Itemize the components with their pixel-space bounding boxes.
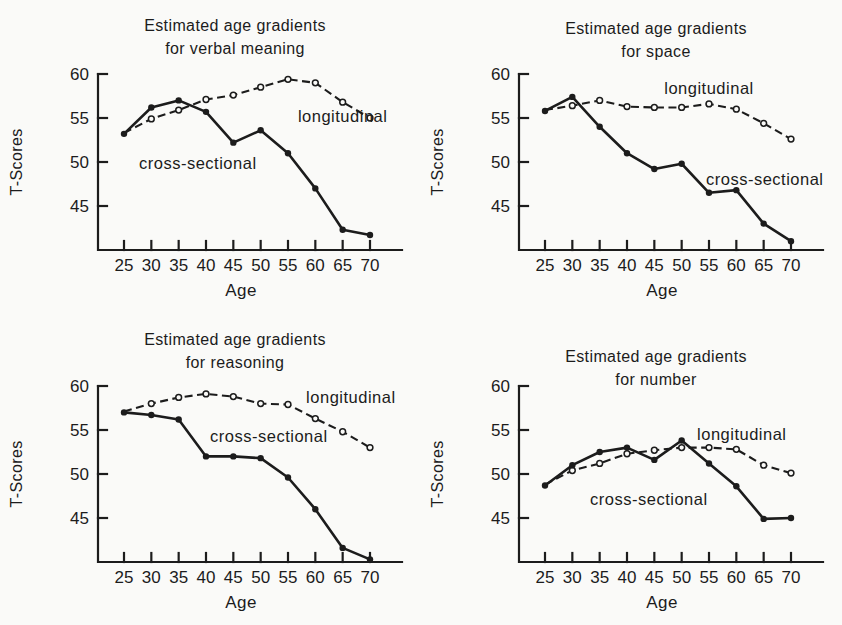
plot-area-space: 4550556025303540455055606570longitudinal… [421, 0, 842, 312]
filled-circle-marker [760, 516, 766, 522]
open-circle-marker [706, 445, 712, 451]
y-tick-label: 55 [70, 421, 89, 440]
y-tick-label: 45 [491, 509, 510, 528]
open-circle-marker [569, 103, 575, 109]
filled-circle-marker [788, 515, 794, 521]
filled-circle-marker [706, 190, 712, 196]
chart-reasoning: Estimated age gradients for reasoning T-… [0, 312, 421, 625]
filled-circle-marker [285, 150, 291, 156]
series-cross-sectional: cross-sectional [121, 409, 373, 562]
x-tick-label: 65 [754, 568, 773, 587]
filled-circle-marker [148, 104, 154, 110]
x-tick-label: 70 [782, 568, 801, 587]
series-cross-sectional: cross-sectional [542, 94, 824, 245]
x-tick-label: 55 [279, 568, 298, 587]
filled-circle-marker [285, 474, 291, 480]
x-tick-label: 60 [306, 568, 325, 587]
series-label-cross-sectional: cross-sectional [210, 427, 328, 445]
y-tick-label: 55 [491, 109, 510, 128]
x-tick-label: 25 [536, 568, 555, 587]
y-tick-label: 60 [491, 65, 510, 84]
filled-circle-marker [706, 460, 712, 466]
series-label-longitudinal: longitudinal [306, 388, 395, 406]
axes: 4550556025303540455055606570 [70, 377, 402, 588]
x-tick-label: 40 [618, 568, 637, 587]
filled-circle-marker [257, 455, 263, 461]
x-tick-label: 50 [672, 568, 691, 587]
open-circle-marker [367, 445, 373, 451]
filled-circle-marker [367, 232, 373, 238]
x-tick-label: 35 [169, 256, 188, 275]
filled-circle-marker [596, 449, 602, 455]
open-circle-marker [203, 391, 209, 397]
x-tick-label: 70 [361, 256, 380, 275]
open-circle-marker [761, 120, 767, 126]
filled-circle-marker [312, 506, 318, 512]
x-tick-label: 45 [645, 256, 664, 275]
open-circle-marker [597, 98, 603, 104]
chart-space: Estimated age gradients for space T-Scor… [421, 0, 842, 312]
y-tick-label: 45 [70, 197, 89, 216]
y-tick-label: 45 [70, 509, 89, 528]
x-tick-label: 30 [142, 568, 161, 587]
open-circle-marker [176, 107, 182, 113]
x-tick-label: 70 [782, 256, 801, 275]
filled-circle-marker [624, 150, 630, 156]
x-tick-label: 45 [224, 256, 243, 275]
open-circle-marker [597, 461, 603, 467]
open-circle-marker [285, 402, 291, 408]
filled-circle-marker [733, 187, 739, 193]
x-axis-title: Age [519, 281, 805, 301]
x-tick-label: 35 [590, 568, 609, 587]
filled-circle-marker [542, 108, 548, 114]
y-tick-label: 50 [491, 465, 510, 484]
x-tick-label: 50 [251, 256, 270, 275]
plot-area-verbal-meaning: 4550556025303540455055606570longitudinal… [0, 0, 421, 312]
filled-circle-marker [678, 437, 684, 443]
filled-circle-marker [367, 556, 373, 562]
y-tick-label: 60 [70, 377, 89, 396]
open-circle-marker [788, 136, 794, 142]
x-tick-label: 65 [333, 256, 352, 275]
open-circle-marker [148, 116, 154, 122]
open-circle-marker [176, 395, 182, 401]
x-tick-label: 50 [251, 568, 270, 587]
open-circle-marker [569, 468, 575, 474]
open-circle-marker [340, 429, 346, 435]
x-tick-label: 30 [563, 568, 582, 587]
filled-circle-marker [733, 483, 739, 489]
x-tick-label: 25 [115, 568, 134, 587]
series-label-longitudinal: longitudinal [298, 107, 387, 125]
filled-circle-marker [569, 462, 575, 468]
series-label-cross-sectional: cross-sectional [706, 170, 824, 188]
filled-circle-marker [175, 416, 181, 422]
x-tick-label: 50 [672, 256, 691, 275]
open-circle-marker [679, 445, 685, 451]
filled-circle-marker [651, 457, 657, 463]
filled-circle-marker [651, 166, 657, 172]
x-axis-title: Age [519, 593, 805, 613]
series-label-longitudinal: longitudinal [664, 79, 753, 97]
open-circle-marker [340, 99, 346, 105]
x-tick-label: 45 [645, 568, 664, 587]
x-tick-label: 30 [563, 256, 582, 275]
longitudinal-line [545, 448, 791, 485]
x-tick-label: 40 [197, 568, 216, 587]
x-tick-label: 60 [727, 256, 746, 275]
y-tick-label: 55 [70, 109, 89, 128]
x-tick-label: 30 [142, 256, 161, 275]
x-axis-title: Age [98, 281, 384, 301]
filled-circle-marker [624, 444, 630, 450]
filled-circle-marker [203, 109, 209, 115]
y-tick-label: 45 [491, 197, 510, 216]
plot-area-number: 4550556025303540455055606570longitudinal… [421, 312, 842, 625]
filled-circle-marker [230, 139, 236, 145]
filled-circle-marker [788, 238, 794, 244]
filled-circle-marker [121, 409, 127, 415]
open-circle-marker [203, 97, 209, 103]
y-tick-label: 60 [70, 65, 89, 84]
x-axis-title: Age [98, 593, 384, 613]
x-tick-label: 35 [169, 568, 188, 587]
filled-circle-marker [230, 453, 236, 459]
x-tick-label: 55 [700, 256, 719, 275]
